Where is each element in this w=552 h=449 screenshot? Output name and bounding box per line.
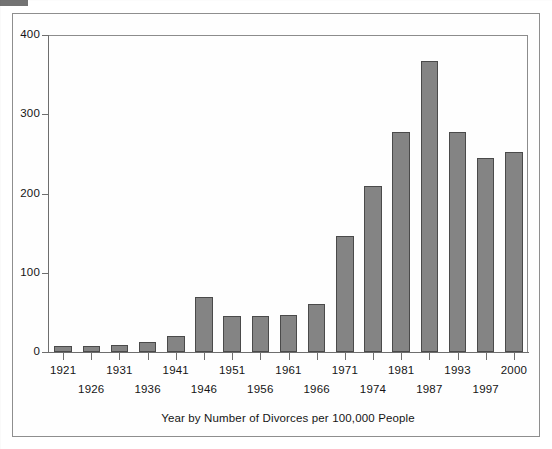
x-axis-tick	[373, 353, 374, 360]
x-axis-tick-label: 1993	[436, 364, 480, 376]
axis-caption: Year by Number of Divorces per 100,000 P…	[48, 411, 528, 425]
bar	[280, 315, 297, 352]
x-axis-tick	[63, 353, 64, 360]
y-axis-tick	[42, 194, 49, 195]
y-axis-tick-label-wrap: 300	[0, 108, 40, 120]
x-axis-tick-label: 2000	[492, 364, 536, 376]
x-axis-tick	[289, 353, 290, 360]
bar	[505, 152, 522, 353]
y-axis-tick-label: 300	[4, 108, 40, 120]
x-axis-tick	[317, 353, 318, 360]
bar	[252, 316, 269, 352]
bar	[139, 342, 156, 352]
x-axis-tick	[176, 353, 177, 360]
x-axis-tick	[345, 353, 346, 360]
y-axis-tick	[42, 273, 49, 274]
x-axis-tick	[119, 353, 120, 360]
bar	[449, 132, 466, 352]
x-axis-tick	[429, 353, 430, 360]
y-axis-tick-label: 200	[4, 188, 40, 200]
x-axis-tick-label: 1956	[238, 383, 282, 395]
bar	[223, 316, 240, 352]
x-axis-tick-label: 1966	[295, 383, 339, 395]
bar	[308, 304, 325, 352]
bar	[364, 186, 381, 352]
x-axis-tick-label: 1981	[379, 364, 423, 376]
x-axis-tick	[204, 353, 205, 360]
x-axis-tick-label: 1931	[97, 364, 141, 376]
bar	[195, 297, 212, 352]
x-axis-tick-label: 1926	[69, 383, 113, 395]
bars-group	[49, 35, 528, 352]
bar-chart: 0100200300400 19211926193119361941194619…	[0, 0, 552, 449]
x-axis-tick-label: 1921	[41, 364, 85, 376]
x-axis-tick	[148, 353, 149, 360]
x-axis-tick	[232, 353, 233, 360]
y-axis-tick-label-wrap: 100	[0, 267, 40, 279]
x-axis-tick-label: 1974	[351, 383, 395, 395]
x-axis-tick-label: 1987	[407, 383, 451, 395]
bar	[111, 345, 128, 352]
bar	[83, 346, 100, 352]
x-axis-tick-label: 1951	[210, 364, 254, 376]
bar	[392, 132, 409, 352]
bar	[421, 61, 438, 352]
x-axis-tick	[486, 353, 487, 360]
x-axis-tick	[91, 353, 92, 360]
x-axis-tick	[514, 353, 515, 360]
y-axis-tick	[42, 35, 49, 36]
y-axis-tick-label: 100	[4, 267, 40, 279]
bar	[336, 236, 353, 352]
x-axis-tick	[458, 353, 459, 360]
y-axis-tick-label-wrap: 200	[0, 188, 40, 200]
bar	[54, 346, 71, 352]
y-axis-tick	[42, 114, 49, 115]
y-axis-tick-label: 0	[4, 346, 40, 358]
x-axis-tick-label: 1971	[323, 364, 367, 376]
bar	[167, 336, 184, 352]
y-axis-tick-label-wrap: 0	[0, 346, 40, 358]
x-axis-tick-label: 1941	[154, 364, 198, 376]
y-axis-tick-label-wrap: 400	[0, 29, 40, 41]
bar	[477, 158, 494, 352]
x-axis-tick-label: 1961	[267, 364, 311, 376]
y-axis-tick	[42, 352, 49, 353]
x-axis-tick	[401, 353, 402, 360]
x-axis-tick-label: 1997	[464, 383, 508, 395]
x-axis-tick-label: 1946	[182, 383, 226, 395]
x-axis-tick-label: 1936	[126, 383, 170, 395]
y-axis-tick-label: 400	[4, 29, 40, 41]
x-axis-tick	[260, 353, 261, 360]
